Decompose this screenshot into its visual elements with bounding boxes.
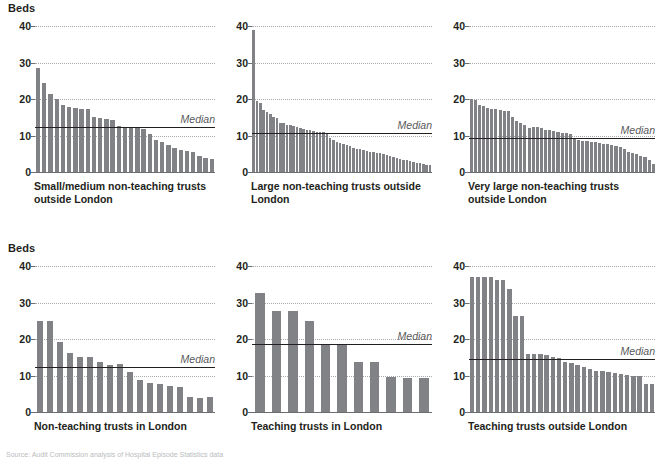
bar	[342, 144, 344, 172]
bar	[272, 311, 282, 412]
chart-panel-2: 010203040Median Large non-teaching trust…	[222, 0, 437, 236]
chart-panel-5: 010203040Median Teaching trusts in Londo…	[222, 236, 437, 458]
bar	[305, 321, 315, 412]
bar	[470, 99, 473, 172]
median-label: Median	[621, 345, 655, 359]
bar	[312, 131, 314, 172]
chart-caption-5: Teaching trusts in London	[251, 420, 443, 433]
bar	[87, 357, 94, 412]
bar-series	[35, 266, 215, 412]
y-tick-label-10: 10	[236, 130, 252, 142]
bar	[67, 353, 74, 412]
bar	[526, 354, 530, 412]
bar	[339, 143, 341, 172]
bar	[515, 121, 518, 172]
bar	[306, 130, 308, 172]
y-tick-label-20: 20	[19, 333, 35, 345]
median-label: Median	[181, 113, 215, 127]
bar	[359, 149, 361, 172]
bar	[386, 155, 388, 172]
bar	[429, 165, 431, 172]
bar	[637, 376, 641, 413]
bar	[172, 148, 176, 172]
bar	[548, 130, 551, 172]
bar	[147, 383, 154, 412]
bar	[494, 109, 497, 172]
bar	[356, 149, 358, 172]
bar	[135, 128, 139, 172]
bar	[276, 118, 278, 172]
median-label: Median	[398, 330, 432, 344]
bar	[532, 354, 536, 412]
bar	[406, 160, 408, 172]
bar	[61, 105, 65, 172]
bar	[419, 163, 421, 172]
bar	[98, 118, 102, 172]
bar	[538, 354, 542, 412]
median-line	[469, 359, 655, 360]
bar	[117, 126, 121, 172]
bar	[167, 386, 174, 412]
bar	[625, 375, 629, 412]
bar	[639, 156, 642, 172]
bar	[399, 159, 401, 172]
y-tick-label-30: 30	[19, 57, 35, 69]
bar	[585, 141, 588, 172]
bar	[474, 100, 477, 172]
bar	[409, 161, 411, 172]
source-footnote: Source: Audit Commission analysis of Hos…	[6, 451, 646, 460]
bar	[544, 355, 548, 412]
bar	[403, 378, 413, 412]
bar	[386, 377, 396, 412]
bar-series	[252, 26, 432, 172]
bar	[528, 128, 531, 172]
bar	[86, 109, 90, 172]
y-axis-title-top-left: Beds	[8, 2, 35, 14]
bar	[482, 106, 485, 172]
bar	[476, 277, 480, 412]
bar	[79, 109, 83, 172]
bar	[207, 397, 214, 412]
chart-panel-1: Beds 010203040Median Small/medium non-te…	[0, 0, 222, 236]
median-line	[469, 138, 655, 139]
y-axis-title-mid-left: Beds	[8, 242, 35, 254]
bar	[644, 384, 648, 412]
bar	[582, 367, 586, 412]
bar	[137, 380, 144, 412]
y-tick-label-40: 40	[236, 20, 252, 32]
bar	[337, 345, 347, 412]
bar	[613, 373, 617, 412]
bar	[396, 158, 398, 172]
y-tick-label-20: 20	[453, 93, 469, 105]
bar	[631, 153, 634, 172]
bar	[286, 125, 288, 172]
bar	[575, 365, 579, 412]
bar	[288, 311, 298, 412]
bar	[635, 154, 638, 172]
chart-caption-1: Small/medium non-teaching trusts outside…	[34, 180, 224, 206]
bar	[321, 345, 331, 412]
bar	[191, 152, 195, 172]
y-tick-label-10: 10	[19, 370, 35, 382]
y-tick-label-10: 10	[453, 130, 469, 142]
bar	[425, 165, 427, 172]
bar	[569, 363, 573, 412]
bar	[581, 141, 584, 172]
bar	[197, 398, 204, 412]
bar	[73, 108, 77, 172]
bar	[354, 362, 364, 412]
bar	[67, 107, 71, 172]
bar	[322, 132, 324, 172]
bar	[346, 145, 348, 172]
bar	[499, 110, 502, 172]
y-tick-label-0: 0	[459, 166, 469, 178]
bar	[299, 128, 301, 172]
bar	[643, 157, 646, 172]
bar	[544, 130, 547, 172]
bar	[352, 148, 354, 172]
chart-teaching-trusts-in-london: 010203040Median	[252, 266, 432, 412]
bar	[588, 369, 592, 412]
bar	[117, 364, 124, 412]
bar	[565, 133, 568, 172]
y-tick-label-20: 20	[453, 333, 469, 345]
